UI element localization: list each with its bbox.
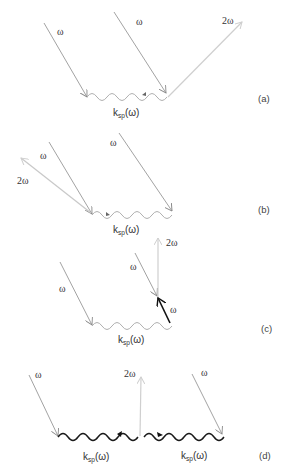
panel-a: ω ω 2ω ksp(ω) (a) bbox=[44, 12, 270, 120]
panel-label-d: (d) bbox=[259, 450, 271, 461]
panel-label-a: (a) bbox=[258, 93, 270, 104]
ksp-label-left: ksp(ω) bbox=[83, 451, 109, 464]
panel-label-c: (c) bbox=[261, 323, 272, 334]
omega-label: ω bbox=[35, 369, 42, 380]
surface-plasmon-wave-right bbox=[144, 434, 224, 441]
second-harmonic-beam bbox=[21, 158, 91, 213]
omega-label: ω bbox=[110, 137, 117, 148]
two-omega-label: 2ω bbox=[222, 15, 234, 26]
panel-d: ω ω 2ω ksp(ω) ksp(ω) (d) bbox=[29, 367, 271, 464]
incident-beam-1 bbox=[44, 23, 87, 97]
surface-plasmon-wave bbox=[87, 94, 167, 101]
two-omega-label: 2ω bbox=[124, 368, 136, 379]
incident-beam-2 bbox=[119, 133, 172, 211]
plasmon-arrowhead bbox=[142, 92, 146, 96]
ksp-label: ksp(ω) bbox=[118, 334, 144, 347]
surface-plasmon-wave bbox=[92, 323, 172, 330]
incident-beam-1 bbox=[49, 142, 92, 214]
omega-label: ω bbox=[40, 150, 47, 161]
panel-label-b: (b) bbox=[258, 204, 270, 215]
omega-label: ω bbox=[130, 261, 137, 272]
omega-label: ω bbox=[57, 26, 64, 37]
panel-b: ω ω 2ω ksp(ω) (b) bbox=[17, 133, 270, 237]
incident-beam-2 bbox=[192, 374, 222, 434]
ksp-label-right: ksp(ω) bbox=[181, 450, 207, 463]
two-omega-label: 2ω bbox=[17, 175, 29, 186]
surface-plasmon-wave bbox=[92, 212, 172, 219]
panel-c: ω ω ω 2ω ksp(ω) (c) bbox=[59, 237, 272, 347]
incident-beam-2 bbox=[135, 253, 157, 296]
omega-label: ω bbox=[59, 283, 66, 294]
two-omega-label: 2ω bbox=[166, 237, 178, 248]
surface-plasmon-wave-left bbox=[58, 434, 138, 441]
second-harmonic-beam bbox=[140, 377, 141, 436]
sfg-diagram: ω ω 2ω ksp(ω) (a) ω ω 2ω ksp(ω) (b) ω ω … bbox=[0, 0, 286, 473]
ksp-label: ksp(ω) bbox=[113, 107, 139, 120]
second-harmonic-beam bbox=[168, 22, 242, 97]
plasmon-arrowhead bbox=[157, 432, 163, 437]
omega-label: ω bbox=[136, 16, 143, 27]
plasmon-arrowhead bbox=[106, 212, 110, 216]
ksp-label: ksp(ω) bbox=[113, 224, 139, 237]
omega-label: ω bbox=[201, 367, 208, 378]
omega-label: ω bbox=[170, 304, 177, 315]
plasmon-decay-arrow bbox=[158, 298, 170, 323]
incident-beam-1 bbox=[29, 375, 58, 436]
